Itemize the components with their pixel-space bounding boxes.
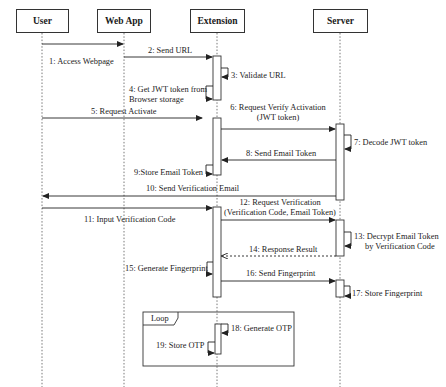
message-11-label: 11: Input Verification Code <box>84 215 175 225</box>
message-4-label-line2: Browser storage <box>129 95 184 105</box>
activation-server-1 <box>336 124 344 200</box>
message-13-arrow <box>344 232 351 246</box>
message-3-arrow <box>221 68 228 77</box>
message-4-arrow <box>206 86 213 99</box>
activation-server-3 <box>336 280 344 297</box>
message-1-label: 1: Access Webpage <box>49 57 114 67</box>
message-5-label: 5: Request Activate <box>91 107 157 117</box>
actor-user: User <box>16 9 69 33</box>
activation-extension-loop <box>215 324 221 354</box>
message-2-label: 2: Send URL <box>148 46 192 56</box>
message-18-label: 18: Generate OTP <box>231 324 292 334</box>
message-18-arrow <box>221 324 228 333</box>
message-3-label: 3: Validate URL <box>231 71 286 81</box>
message-19-arrow <box>208 342 215 353</box>
message-13-label: 13: Decrypt Email Token <box>354 232 439 242</box>
message-13-label-line2: by Verification Code <box>365 242 435 252</box>
activation-extension-1 <box>213 56 221 100</box>
loop-fragment-label: Loop <box>151 314 169 323</box>
message-12-label: 12: Request Verification <box>222 198 338 208</box>
message-14-label: 14: Response Result <box>249 245 317 255</box>
message-12-label-line2: (Verification Code, Email Token) <box>222 208 338 218</box>
activation-extension-2 <box>213 118 221 175</box>
message-4-label: 4: Get JWT token from <box>129 85 207 95</box>
message-17-label: 17: Store Fingerprint <box>352 289 422 299</box>
message-10-label: 10: Send Verification Email <box>146 184 239 194</box>
actor-webapp: Web App <box>97 9 151 33</box>
message-7-arrow <box>344 135 351 149</box>
message-7-label: 7: Decode JWT token <box>354 138 427 148</box>
message-9-label: 9:Store Email Token <box>134 168 203 178</box>
activation-extension-3 <box>213 207 221 297</box>
message-6-label-line2: (JWT token) <box>230 113 326 123</box>
actor-server: Server <box>313 9 368 33</box>
activation-server-2 <box>336 220 344 256</box>
message-6-label: 6: Request Verify Activation <box>230 103 326 113</box>
message-9-arrow <box>206 165 213 174</box>
actor-extension: Extension <box>190 9 245 33</box>
message-15-label: 15: Generate Fingerprint <box>125 264 208 274</box>
message-17-arrow <box>344 286 350 296</box>
message-19-label: 19: Store OTP <box>156 341 204 351</box>
message-16-label: 16: Send Fingerprint <box>246 269 315 279</box>
message-8-label: 8: Send Email Token <box>246 149 316 159</box>
